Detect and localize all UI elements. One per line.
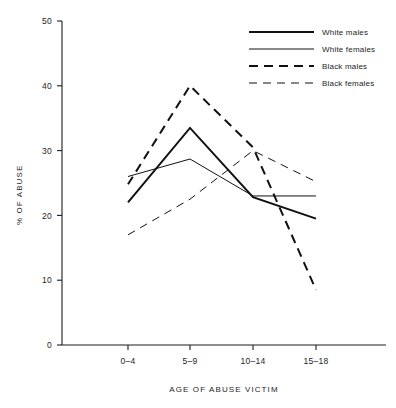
x-axis-title: AGE OF ABUSE VICTIM bbox=[169, 385, 278, 394]
legend-label-white-males: White males bbox=[322, 28, 368, 37]
x-tick-label: 0–4 bbox=[120, 356, 135, 366]
line-chart: 01020304050 0–45–910–1415–18 % OF ABUSE … bbox=[0, 0, 396, 408]
legend: White malesWhite femalesBlack malesBlack… bbox=[249, 28, 375, 88]
y-tick-label: 0 bbox=[47, 340, 52, 350]
x-tick-label: 5–9 bbox=[182, 356, 197, 366]
x-tick-label: 10–14 bbox=[240, 356, 265, 366]
x-axis-ticks bbox=[128, 345, 316, 350]
chart-canvas: 01020304050 0–45–910–1415–18 % OF ABUSE … bbox=[0, 0, 396, 408]
y-tick-label: 30 bbox=[42, 146, 52, 156]
y-axis-title: % OF ABUSE bbox=[15, 165, 24, 225]
y-tick-label: 50 bbox=[42, 16, 52, 26]
legend-label-black-females: Black females bbox=[322, 79, 374, 88]
y-tick-label: 20 bbox=[42, 211, 52, 221]
y-axis-ticks bbox=[57, 21, 62, 345]
y-tick-label: 10 bbox=[42, 275, 52, 285]
series-line-white-males bbox=[128, 128, 316, 219]
y-axis-tick-labels: 01020304050 bbox=[42, 16, 52, 350]
series-lines-group bbox=[128, 86, 316, 290]
x-tick-label: 15–18 bbox=[303, 356, 328, 366]
y-tick-label: 40 bbox=[42, 81, 52, 91]
legend-label-white-females: White females bbox=[322, 45, 375, 54]
series-line-black-males bbox=[128, 86, 316, 290]
legend-label-black-males: Black males bbox=[322, 62, 367, 71]
x-axis-tick-labels: 0–45–910–1415–18 bbox=[120, 356, 328, 366]
